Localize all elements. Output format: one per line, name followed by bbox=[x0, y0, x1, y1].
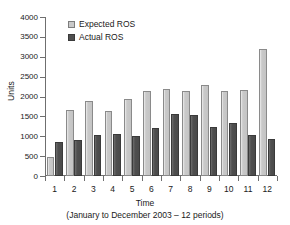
y-tick-label: 3000 bbox=[20, 51, 38, 62]
bar-actual bbox=[210, 127, 218, 176]
y-tick: 3500 bbox=[40, 37, 45, 38]
bar-actual bbox=[229, 123, 237, 176]
y-tick: 2500 bbox=[40, 77, 45, 78]
x-tick bbox=[142, 176, 143, 181]
bar-actual bbox=[113, 134, 121, 176]
bar-actual bbox=[152, 128, 160, 176]
y-tick-label: 1500 bbox=[20, 111, 38, 122]
bar-expected bbox=[201, 85, 209, 176]
x-tick bbox=[161, 176, 162, 181]
bar-actual bbox=[94, 135, 102, 176]
y-tick-label: 3500 bbox=[20, 31, 38, 42]
x-tick bbox=[103, 176, 104, 181]
legend-label-actual: Actual ROS bbox=[79, 31, 123, 44]
x-tick bbox=[258, 176, 259, 181]
x-tick bbox=[64, 176, 65, 181]
x-tick bbox=[45, 176, 46, 181]
x-tick-label: 6 bbox=[149, 184, 154, 194]
y-axis-title: Units bbox=[6, 61, 16, 121]
bar-expected bbox=[182, 91, 190, 176]
x-tick-label: 3 bbox=[91, 184, 96, 194]
y-tick-label: 500 bbox=[25, 151, 38, 162]
legend-label-expected: Expected ROS bbox=[79, 18, 135, 31]
x-tick-label: 1 bbox=[52, 184, 57, 194]
y-tick-label: 0 bbox=[34, 171, 38, 182]
x-axis-caption: (January to December 2003 – 12 periods) bbox=[0, 210, 290, 220]
x-tick-label: 9 bbox=[207, 184, 212, 194]
bar-expected bbox=[259, 49, 267, 176]
y-tick-label: 2500 bbox=[20, 71, 38, 82]
x-tick-label: 5 bbox=[130, 184, 135, 194]
bar-expected bbox=[240, 90, 248, 176]
y-tick-label: 1000 bbox=[20, 131, 38, 142]
y-tick: 1500 bbox=[40, 116, 45, 117]
x-tick-label: 12 bbox=[263, 184, 272, 194]
x-tick bbox=[219, 176, 220, 181]
bar-expected bbox=[143, 91, 151, 176]
legend-item-expected: Expected ROS bbox=[68, 18, 135, 31]
legend-item-actual: Actual ROS bbox=[68, 31, 135, 44]
bar-actual bbox=[74, 140, 82, 176]
y-tick: 4000 bbox=[40, 17, 45, 18]
x-tick bbox=[277, 176, 278, 181]
bar-actual bbox=[268, 139, 276, 176]
bar-actual bbox=[171, 114, 179, 176]
y-tick: 3000 bbox=[40, 57, 45, 58]
x-tick-label: 7 bbox=[168, 184, 173, 194]
bar-expected bbox=[124, 99, 132, 176]
bar-chart: Units 40003500300025002000150010005000 1… bbox=[0, 0, 290, 225]
legend: Expected ROS Actual ROS bbox=[68, 18, 135, 44]
x-tick-label: 2 bbox=[72, 184, 77, 194]
x-axis-title: Time bbox=[0, 198, 290, 208]
x-tick bbox=[238, 176, 239, 181]
x-tick bbox=[122, 176, 123, 181]
y-tick-label: 2000 bbox=[20, 91, 38, 102]
bar-expected bbox=[163, 89, 171, 176]
legend-swatch-icon-expected bbox=[68, 21, 75, 28]
y-axis-line bbox=[45, 17, 46, 176]
bar-actual bbox=[55, 142, 63, 176]
bar-expected bbox=[47, 157, 55, 176]
y-tick: 1000 bbox=[40, 136, 45, 137]
x-tick-label: 10 bbox=[224, 184, 233, 194]
y-tick-label: 4000 bbox=[20, 12, 38, 23]
y-tick: 500 bbox=[40, 156, 45, 157]
bar-expected bbox=[221, 91, 229, 176]
x-tick-label: 11 bbox=[244, 184, 253, 194]
bar-expected bbox=[85, 101, 93, 176]
bar-actual bbox=[190, 115, 198, 176]
y-tick: 2000 bbox=[40, 97, 45, 98]
x-tick bbox=[180, 176, 181, 181]
bar-expected bbox=[105, 111, 113, 176]
bar-actual bbox=[248, 135, 256, 176]
x-tick-label: 8 bbox=[188, 184, 193, 194]
bar-actual bbox=[132, 136, 140, 176]
x-tick bbox=[84, 176, 85, 181]
x-tick bbox=[200, 176, 201, 181]
x-tick-label: 4 bbox=[110, 184, 115, 194]
bar-expected bbox=[66, 110, 74, 176]
legend-swatch-icon-actual bbox=[68, 34, 75, 41]
